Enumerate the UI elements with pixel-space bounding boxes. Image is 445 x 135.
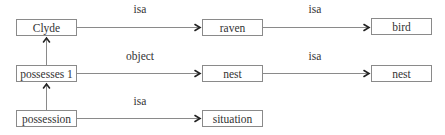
node-clyde: Clyde (16, 19, 77, 36)
edge-label-object: object (126, 50, 154, 62)
edge-label-isa: isa (309, 50, 322, 62)
node-label: nest (223, 68, 242, 80)
edge-label-isa: isa (134, 3, 147, 15)
node-label: situation (213, 113, 253, 125)
node-label: raven (220, 22, 246, 34)
node-label: possesses 1 (20, 68, 73, 80)
node-label: bird (392, 21, 411, 33)
node-possession: possession (16, 110, 77, 127)
node-bird: bird (371, 18, 432, 35)
node-raven: raven (202, 19, 263, 36)
node-nest-right: nest (371, 65, 432, 82)
node-possesses-1: possesses 1 (16, 65, 77, 82)
node-situation: situation (202, 110, 263, 127)
node-label: possession (22, 113, 71, 125)
node-label: nest (392, 68, 411, 80)
node-nest-mid: nest (202, 65, 263, 82)
node-label: Clyde (33, 22, 60, 34)
edge-label-isa: isa (309, 3, 322, 15)
edge-label-isa: isa (134, 95, 147, 107)
